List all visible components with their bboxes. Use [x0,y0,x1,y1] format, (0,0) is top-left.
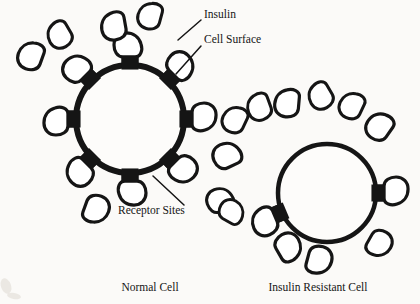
receptor-site [68,111,81,128]
annotation-label-receptor-sites: Receptor Sites [118,204,185,217]
caption-normal-cell: Normal Cell [121,281,178,293]
receptor-site [371,185,384,202]
bound-insulin-molecule [384,177,408,205]
insulin-molecule-outline [192,103,216,131]
annotation-label-insulin: Insulin [204,8,236,20]
insulin-molecule-outline [384,177,408,205]
bound-insulin-molecule [44,107,68,135]
caption-insulin-resistant-cell: Insulin Resistant Cell [268,281,367,293]
bound-insulin-molecule [192,103,216,131]
receptor-site [179,111,192,128]
bound-insulin-molecule [118,181,146,205]
cell-membrane [278,144,376,242]
annotation-label-cell-surface: Cell Surface [204,33,261,45]
diagram-canvas: InsulinCell SurfaceReceptor Sites Normal… [0,0,420,304]
receptor-site [122,57,139,70]
insulin-molecule-outline [44,107,68,135]
insulin-molecule-outline [118,181,146,205]
insulin-receptor-diagram: InsulinCell SurfaceReceptor Sites Normal… [0,0,420,304]
receptor-site [122,168,139,181]
